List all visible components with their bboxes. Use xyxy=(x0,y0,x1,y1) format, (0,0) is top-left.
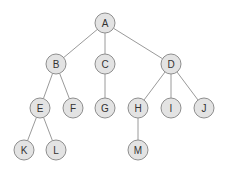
edge-b-e xyxy=(43,73,52,98)
edge-d-j xyxy=(177,72,198,100)
tree-nodes: ABCDEFGHIJKLM xyxy=(14,13,214,160)
node-f: F xyxy=(63,98,83,118)
node-label: A xyxy=(102,18,109,29)
node-label: L xyxy=(53,145,59,156)
node-b: B xyxy=(46,54,66,74)
node-m: M xyxy=(128,140,148,160)
edge-a-b xyxy=(64,29,98,57)
node-label: I xyxy=(170,103,173,114)
edge-b-f xyxy=(60,73,70,98)
edge-e-k xyxy=(28,117,37,140)
node-j: J xyxy=(194,98,214,118)
node-label: D xyxy=(167,59,174,70)
edge-d-h xyxy=(144,72,165,100)
edge-e-l xyxy=(44,117,53,140)
tree-diagram: ABCDEFGHIJKLM xyxy=(0,0,226,172)
edge-a-d xyxy=(113,28,162,58)
node-i: I xyxy=(161,98,181,118)
node-h: H xyxy=(128,98,148,118)
node-l: L xyxy=(46,140,66,160)
node-c: C xyxy=(95,54,115,74)
node-g: G xyxy=(95,98,115,118)
node-label: G xyxy=(101,103,109,114)
node-label: J xyxy=(202,103,207,114)
node-label: K xyxy=(21,145,28,156)
node-a: A xyxy=(95,13,115,33)
node-d: D xyxy=(161,54,181,74)
node-e: E xyxy=(30,98,50,118)
node-label: E xyxy=(37,103,44,114)
node-k: K xyxy=(14,140,34,160)
node-label: F xyxy=(70,103,76,114)
node-label: H xyxy=(134,103,141,114)
tree-edges xyxy=(28,28,198,140)
node-label: M xyxy=(134,145,142,156)
node-label: C xyxy=(101,59,108,70)
node-label: B xyxy=(53,59,60,70)
